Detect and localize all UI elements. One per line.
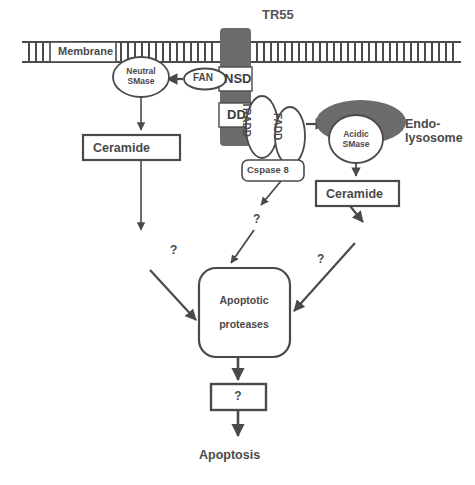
neutral-smase-line1: Neutral — [126, 66, 155, 76]
ceramide-right-label: Ceramide — [326, 187, 383, 201]
arrow-ceramide-right-down — [350, 206, 363, 222]
apoptotic-proteases-box — [199, 268, 290, 357]
fan-label: FAN — [193, 72, 213, 84]
acidic-smase-label: Acidic SMase — [334, 130, 378, 150]
apoptosis-outcome-label: Apoptosis — [199, 448, 260, 462]
acidic-smase-line2: SMase — [343, 139, 370, 149]
arrow-cspase8-segment-b — [231, 230, 254, 263]
unknown-step-label: ? — [231, 390, 245, 404]
domain-label-nsd: NSD — [224, 72, 251, 87]
arrow-ceramide-right-to-proteases — [294, 243, 355, 311]
unknown-marker-middle: ? — [253, 212, 260, 226]
apoptotic-proteases-line1: Apoptotic — [207, 294, 281, 306]
unknown-marker-left: ? — [170, 243, 177, 257]
ceramide-left-label: Ceramide — [93, 141, 150, 155]
arrow-ceramide-left-to-proteases — [150, 270, 196, 320]
endolysosome-line2: lysosome — [405, 131, 463, 145]
endolysosome-line1: Endo- — [405, 117, 440, 131]
arrow-cspase8-segment-a — [261, 181, 281, 205]
neutral-smase-label: Neutral SMase — [119, 67, 163, 87]
pathway-diagram: TR55 Membrane NSD DD FAN TRADD FADD Neut… — [0, 0, 475, 485]
fadd-label: FADD — [272, 113, 284, 140]
neutral-smase-line2: SMase — [128, 76, 155, 86]
cspase8-label: Cspase 8 — [247, 165, 289, 176]
endolysosome-label: Endo- lysosome — [405, 117, 463, 146]
membrane-label: Membrane — [58, 45, 113, 58]
tradd-label: TRADD — [241, 102, 253, 137]
apoptotic-proteases-line2: proteases — [207, 318, 281, 330]
acidic-smase-line1: Acidic — [343, 129, 369, 139]
receptor-title-label: TR55 — [262, 8, 294, 23]
unknown-marker-right: ? — [317, 252, 324, 266]
